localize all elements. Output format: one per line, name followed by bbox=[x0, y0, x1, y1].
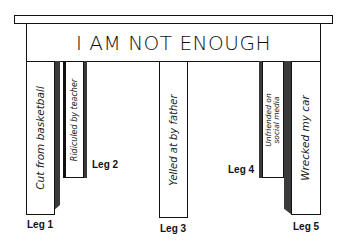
leg-5-label: Leg 5 bbox=[293, 221, 319, 232]
leg-4-text: Unfriended on social media bbox=[265, 93, 281, 146]
leg-2-label: Leg 2 bbox=[92, 159, 118, 170]
leg-3-text: Yelled at by father bbox=[168, 94, 179, 185]
leg-1: Cut from basketball bbox=[26, 61, 55, 215]
leg-4-text-line2: social media bbox=[272, 96, 281, 143]
table-apron: I AM NOT ENOUGH bbox=[26, 23, 321, 62]
leg-4-label: Leg 4 bbox=[228, 164, 254, 175]
leg-5-text: Wrecked my car bbox=[300, 95, 311, 181]
leg-3: Yelled at by father bbox=[159, 61, 188, 218]
leg-2-text: Ridiculed by teacher bbox=[70, 78, 78, 160]
belief-title: I AM NOT ENOUGH bbox=[76, 31, 271, 55]
leg-5: Wrecked my car bbox=[291, 61, 321, 215]
leg-1-label: Leg 1 bbox=[27, 219, 53, 230]
leg-3-label: Leg 3 bbox=[160, 223, 186, 234]
leg-1-text: Cut from basketball bbox=[35, 86, 46, 190]
leg-4: Unfriended on social media bbox=[262, 61, 284, 178]
leg-2: Ridiculed by teacher bbox=[63, 61, 84, 178]
